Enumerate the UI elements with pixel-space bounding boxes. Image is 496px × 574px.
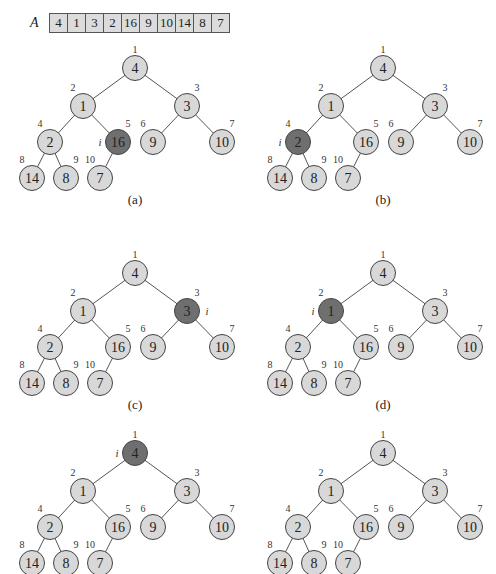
heap-node: 107 bbox=[210, 323, 235, 360]
node-index: 7 bbox=[478, 118, 483, 129]
node-index: 5 bbox=[126, 503, 131, 514]
panel-caption: (c) bbox=[128, 397, 142, 412]
node-index: 5 bbox=[374, 323, 379, 334]
node-index: 8 bbox=[268, 539, 273, 550]
heap-node: 96 bbox=[389, 503, 414, 540]
heap-node: 12 bbox=[71, 82, 96, 119]
heap-node: 24i bbox=[279, 118, 311, 155]
node-value: 8 bbox=[311, 556, 318, 571]
node-value: 9 bbox=[150, 520, 157, 535]
node-index: 8 bbox=[268, 154, 273, 165]
tree-panel-a: 41123324165i9610714889710(a) bbox=[20, 44, 235, 208]
node-index: 9 bbox=[74, 359, 79, 370]
heap-diagram: 41123324165i9610714889710(a)41123324i165… bbox=[0, 0, 496, 574]
node-value: 14 bbox=[25, 171, 39, 186]
node-index: 3 bbox=[443, 287, 448, 298]
node-index: 10 bbox=[85, 154, 95, 165]
node-value: 2 bbox=[295, 340, 302, 355]
node-index: 4 bbox=[286, 118, 291, 129]
node-index: 4 bbox=[38, 323, 43, 334]
node-value: 2 bbox=[47, 135, 54, 150]
node-value: 16 bbox=[111, 520, 125, 535]
node-value: 7 bbox=[97, 171, 104, 186]
node-value: 10 bbox=[463, 520, 477, 535]
heap-node: 148 bbox=[268, 154, 293, 191]
node-index: 7 bbox=[230, 118, 235, 129]
node-value: 4 bbox=[132, 446, 139, 461]
i-pointer-label: i bbox=[312, 305, 315, 317]
node-index: 2 bbox=[71, 467, 76, 478]
heap-node: 710 bbox=[85, 539, 113, 574]
heap-node: 107 bbox=[458, 503, 483, 540]
node-index: 2 bbox=[319, 467, 324, 478]
tree-panel-d: 4112i33241659610714889710(d) bbox=[268, 249, 483, 413]
node-index: 4 bbox=[286, 503, 291, 514]
node-index: 9 bbox=[322, 539, 327, 550]
node-value: 3 bbox=[432, 99, 439, 114]
node-value: 8 bbox=[63, 556, 70, 571]
node-index: 4 bbox=[286, 323, 291, 334]
node-value: 3 bbox=[184, 484, 191, 499]
node-value: 7 bbox=[97, 556, 104, 571]
node-value: 4 bbox=[380, 266, 387, 281]
node-index: 8 bbox=[20, 154, 25, 165]
node-index: 5 bbox=[374, 503, 379, 514]
heap-node: 165 bbox=[106, 503, 131, 540]
heap-node: 96 bbox=[141, 323, 166, 360]
node-value: 2 bbox=[295, 135, 302, 150]
tree-panel-e: 41i1233241659610714889710(e) bbox=[20, 429, 235, 574]
node-value: 14 bbox=[273, 171, 287, 186]
node-value: 9 bbox=[398, 135, 405, 150]
heap-node: 710 bbox=[333, 359, 361, 396]
node-index: 10 bbox=[85, 359, 95, 370]
node-value: 1 bbox=[80, 99, 87, 114]
node-index: 10 bbox=[85, 539, 95, 550]
node-index: 3 bbox=[195, 287, 200, 298]
panel-caption: (b) bbox=[375, 192, 390, 207]
node-value: 9 bbox=[150, 135, 157, 150]
node-value: 16 bbox=[111, 135, 125, 150]
panel-caption: (a) bbox=[128, 192, 142, 207]
node-value: 16 bbox=[359, 340, 373, 355]
node-index: 1 bbox=[133, 249, 138, 260]
heap-node: 24 bbox=[286, 503, 311, 540]
node-value: 1 bbox=[328, 484, 335, 499]
heap-node: 96 bbox=[141, 118, 166, 155]
node-index: 6 bbox=[141, 323, 146, 334]
node-value: 3 bbox=[184, 99, 191, 114]
node-index: 2 bbox=[319, 287, 324, 298]
node-value: 9 bbox=[398, 340, 405, 355]
heap-node: 24 bbox=[38, 118, 63, 155]
heap-node: 96 bbox=[389, 118, 414, 155]
node-index: 6 bbox=[389, 118, 394, 129]
node-index: 8 bbox=[268, 359, 273, 370]
node-index: 1 bbox=[133, 44, 138, 55]
node-value: 10 bbox=[215, 135, 229, 150]
node-value: 4 bbox=[380, 61, 387, 76]
heap-node: 148 bbox=[20, 539, 45, 574]
node-index: 3 bbox=[443, 82, 448, 93]
node-index: 4 bbox=[38, 118, 43, 129]
node-index: 8 bbox=[20, 359, 25, 370]
node-index: 9 bbox=[322, 154, 327, 165]
node-index: 6 bbox=[389, 503, 394, 514]
node-value: 1 bbox=[80, 484, 87, 499]
panel-caption: (d) bbox=[375, 397, 390, 412]
heap-node: 33 bbox=[175, 82, 200, 119]
node-value: 7 bbox=[345, 171, 352, 186]
node-index: 8 bbox=[20, 539, 25, 550]
node-value: 10 bbox=[463, 135, 477, 150]
heap-node: 710 bbox=[85, 359, 113, 396]
heap-node: 710 bbox=[333, 539, 361, 574]
heap-node: 148 bbox=[268, 359, 293, 396]
node-value: 2 bbox=[47, 340, 54, 355]
node-index: 1 bbox=[133, 429, 138, 440]
node-value: 3 bbox=[184, 304, 191, 319]
node-index: 2 bbox=[71, 82, 76, 93]
node-index: 1 bbox=[381, 44, 386, 55]
tree-panel-f: 411233241659610714889710(f) bbox=[268, 429, 483, 574]
node-index: 6 bbox=[389, 323, 394, 334]
heap-node: 24 bbox=[38, 323, 63, 360]
node-value: 14 bbox=[25, 556, 39, 571]
node-value: 8 bbox=[63, 376, 70, 391]
